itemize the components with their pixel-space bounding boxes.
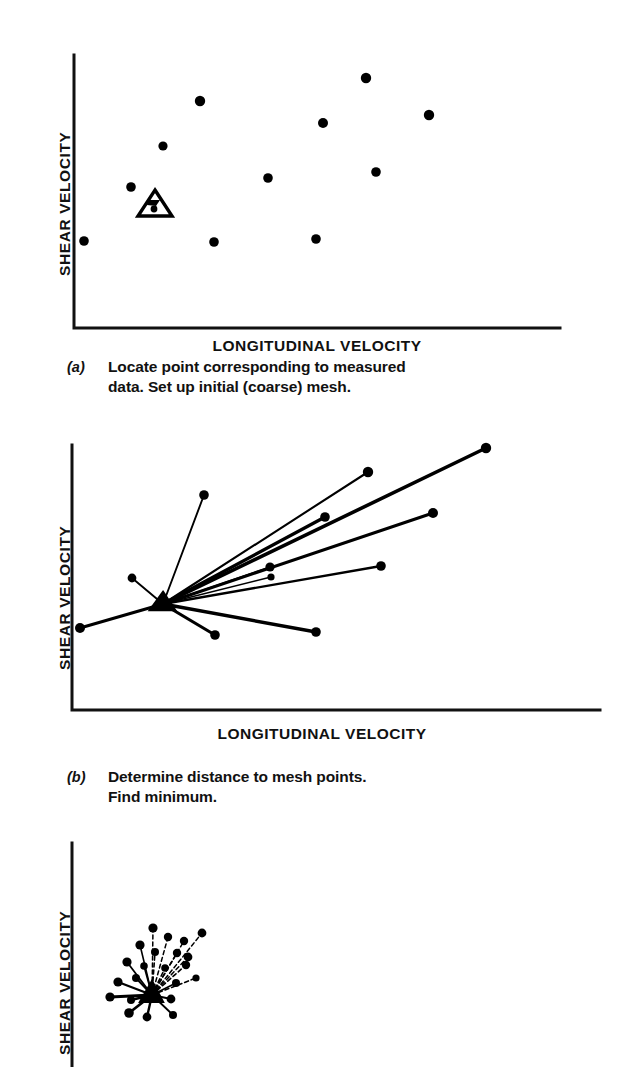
panel-b-y-axis-label: SHEAR VELOCITY [56,526,74,670]
panel-a: SHEAR VELOCITY LONGITUDINAL VELOCITY [0,0,626,340]
panel-b: SHEAR VELOCITY LONGITUDINAL VELOCITY [0,420,626,720]
panel-c-refine-lines [110,928,202,1017]
panel-a-x-axis-label: LONGITUDINAL VELOCITY [74,337,560,355]
panel-b-caption: (b) Determine distance to mesh points. F… [67,767,547,807]
panel-b-caption-line1: Determine distance to mesh points. [108,768,366,785]
panel-c-data-points [105,923,206,1021]
panel-a-caption-line1: Locate point corresponding to measured [108,358,406,375]
panel-b-caption-line2: Find minimum. [108,787,547,807]
panel-a-axes [74,55,560,328]
panel-a-caption-line2: data. Set up initial (coarse) mesh. [108,377,547,397]
panel-b-tag: (b) [67,767,86,787]
panel-b-distance-lines [80,448,486,635]
panel-a-y-axis-label: SHEAR VELOCITY [56,132,74,276]
velocity-mesh-search-figure: SHEAR VELOCITY LONGITUDINAL VELOCITY (a)… [0,0,626,1067]
panel-b-axes [72,445,600,710]
panel-c: SHEAR VELOCITY [0,830,626,1067]
panel-a-plot [0,0,626,340]
panel-a-data-points [79,73,434,247]
panel-b-plot [0,420,626,720]
panel-a-caption: (a) Locate point corresponding to measur… [67,357,547,397]
panel-b-x-axis-label: LONGITUDINAL VELOCITY [72,725,572,743]
panel-a-tag: (a) [67,357,85,377]
panel-c-plot [0,830,626,1067]
panel-c-y-axis-label: SHEAR VELOCITY [56,911,74,1055]
measured-data-marker-a [138,190,172,216]
